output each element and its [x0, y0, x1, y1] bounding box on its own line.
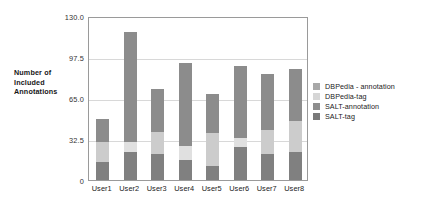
bar-segment[interactable] [179, 146, 192, 160]
bar-segment[interactable] [261, 74, 274, 130]
legend-item[interactable]: DBPedia - annotation [313, 81, 425, 91]
x-axis-tick-label: User5 [202, 184, 222, 193]
x-axis-tick-labels: User1User2User3User4User5User6User7User8 [88, 184, 308, 198]
legend-swatch-icon [313, 103, 320, 110]
y-axis-tick-labels: 130.097.565.032.50 [42, 17, 84, 181]
bar-segment[interactable] [151, 89, 164, 132]
bar-segment[interactable] [206, 133, 219, 166]
legend-item[interactable]: SALT-tag [313, 112, 425, 122]
bar-stack[interactable] [206, 94, 219, 180]
y-axis-tick-label: 0 [44, 177, 84, 186]
x-axis-tick-label: User1 [92, 184, 112, 193]
bar-segment[interactable] [179, 63, 192, 146]
bar-stack[interactable] [261, 74, 274, 180]
bar-segment[interactable] [124, 152, 137, 180]
bar-segment[interactable] [234, 66, 247, 138]
bar-stack[interactable] [289, 69, 302, 180]
legend-item[interactable]: SALT-annotation [313, 101, 425, 111]
bar-segment[interactable] [206, 166, 219, 180]
legend-label: SALT-annotation [325, 102, 379, 111]
x-axis-tick-label: User8 [284, 184, 304, 193]
bar-segment[interactable] [261, 154, 274, 180]
bar-segment[interactable] [96, 162, 109, 180]
bar-stack[interactable] [179, 63, 192, 180]
legend-swatch-icon [313, 83, 320, 90]
bar-segment[interactable] [96, 119, 109, 142]
legend-swatch-icon [313, 93, 320, 100]
bar-segment[interactable] [289, 152, 302, 180]
y-axis-tick-label: 130.0 [44, 13, 84, 22]
bar-segment[interactable] [151, 132, 164, 153]
legend-swatch-icon [313, 113, 320, 120]
x-axis-tick-label: User4 [174, 184, 194, 193]
legend-label: DBPedia-tag [325, 92, 367, 101]
legend-label: DBPedia - annotation [325, 82, 395, 91]
bar-stack[interactable] [124, 32, 137, 180]
bar-chart: Number of Included Annotations 130.097.5… [0, 0, 428, 217]
bar-segment[interactable] [206, 94, 219, 133]
bar-segment[interactable] [289, 69, 302, 121]
x-axis-tick-label: User7 [257, 184, 277, 193]
x-axis-tick-label: User2 [119, 184, 139, 193]
y-axis-tick-label: 32.5 [44, 136, 84, 145]
legend-label: SALT-tag [325, 112, 355, 121]
bar-segment[interactable] [289, 121, 302, 153]
bar-segment[interactable] [96, 142, 109, 162]
bar-stack[interactable] [151, 89, 164, 180]
bar-segment[interactable] [124, 142, 137, 152]
bar-segment[interactable] [124, 32, 137, 142]
bar-stack[interactable] [234, 66, 247, 180]
x-axis-tick-label: User3 [147, 184, 167, 193]
legend-item[interactable]: DBPedia-tag [313, 91, 425, 101]
plot-area [88, 17, 308, 181]
y-axis-tick-label: 97.5 [44, 54, 84, 63]
bar-segment[interactable] [179, 160, 192, 180]
legend: DBPedia - annotationDBPedia-tagSALT-anno… [313, 81, 425, 122]
x-axis-tick-label: User6 [229, 184, 249, 193]
y-axis-tick-label: 65.0 [44, 95, 84, 104]
bar-segment[interactable] [234, 147, 247, 180]
bars-layer [89, 18, 307, 180]
bar-segment[interactable] [151, 154, 164, 180]
bar-segment[interactable] [234, 138, 247, 147]
bar-stack[interactable] [96, 119, 109, 180]
bar-segment[interactable] [261, 130, 274, 154]
